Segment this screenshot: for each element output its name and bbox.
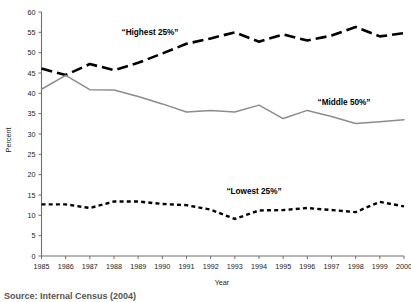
chart-container: 605550454035302520151050 198519861987198… — [0, 0, 411, 302]
x-tick-label: 1986 — [58, 262, 74, 271]
x-tick-label: 1997 — [324, 262, 340, 271]
x-tick-label: 1999 — [372, 262, 388, 271]
x-tick-label: 1985 — [34, 262, 50, 271]
x-tick-label: 1988 — [106, 262, 122, 271]
y-axis-tick-labels: 605550454035302520151050 — [28, 8, 36, 261]
line-chart: 605550454035302520151050 198519861987198… — [0, 0, 411, 302]
x-tick-label: 1998 — [348, 262, 364, 271]
x-tick-label: 1991 — [179, 262, 195, 271]
x-axis-tick-labels: 1985198619871988198919901991199219931994… — [34, 262, 411, 271]
y-tick-label: 5 — [32, 231, 36, 240]
y-tick-label: 55 — [28, 28, 36, 37]
x-tick-label: 1990 — [154, 262, 170, 271]
series-line-lowest-25 — [42, 202, 405, 219]
y-tick-label: 40 — [28, 89, 36, 98]
y-tick-label: 60 — [28, 8, 36, 17]
y-tick-label: 35 — [28, 109, 36, 118]
series-annotations: “Highest 25%” “Middle 50%” “Lowest 25%” — [122, 28, 371, 196]
y-axis-title: Percent — [4, 128, 13, 153]
x-tick-label: 1993 — [227, 262, 243, 271]
x-tick-label: 2000 — [396, 262, 411, 271]
chart-axes — [42, 12, 405, 256]
series-label-lowest-25: “Lowest 25%” — [226, 187, 281, 196]
x-tick-label: 1996 — [299, 262, 315, 271]
x-tick-label: 1989 — [130, 262, 146, 271]
y-tick-label: 20 — [28, 170, 36, 179]
y-tick-label: 15 — [28, 191, 36, 200]
x-tick-label: 1992 — [203, 262, 219, 271]
series-label-highest-25: “Highest 25%” — [122, 28, 179, 37]
y-tick-label: 0 — [32, 252, 36, 261]
y-tick-label: 25 — [28, 150, 36, 159]
x-tick-label: 1994 — [251, 262, 267, 271]
series-line-highest-25 — [42, 27, 405, 75]
series-label-middle-50: “Middle 50%” — [318, 98, 371, 107]
x-tick-label: 1995 — [275, 262, 291, 271]
x-axis-title: Year — [215, 278, 230, 287]
y-tick-label: 10 — [28, 211, 36, 220]
y-tick-label: 30 — [28, 130, 36, 139]
x-tick-label: 1987 — [82, 262, 98, 271]
y-tick-label: 50 — [28, 48, 36, 57]
y-tick-label: 45 — [28, 69, 36, 78]
series-layer — [42, 27, 405, 219]
source-note: Source: Internal Census (2004) — [4, 291, 136, 302]
